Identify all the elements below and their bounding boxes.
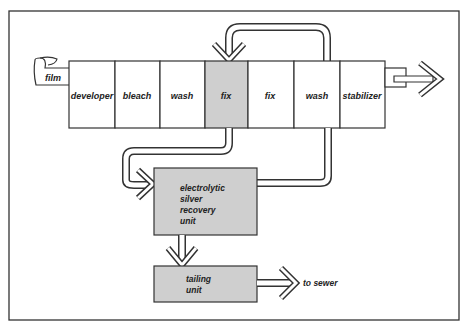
photo-processing-diagram: film developer bleach wash fix fix wash … bbox=[0, 0, 462, 329]
tailing-unit bbox=[154, 266, 257, 302]
film-roll-icon: film bbox=[34, 57, 70, 85]
return-pipe-top bbox=[214, 27, 327, 61]
electrolytic-silver-recovery-unit bbox=[154, 168, 257, 235]
recovery-unit-line3: recovery bbox=[180, 205, 217, 215]
recovery-to-tailing-arrow bbox=[168, 235, 196, 265]
wash-to-recovery-pipe bbox=[257, 128, 328, 183]
tailing-unit-line2: unit bbox=[186, 285, 203, 295]
tank-label-fix-2: fix bbox=[265, 91, 276, 101]
to-sewer-arrow bbox=[257, 268, 296, 298]
recovery-unit-line4: unit bbox=[180, 216, 197, 226]
tailing-unit-line1: tailing bbox=[186, 274, 212, 284]
processing-tanks: developer bleach wash fix fix wash stabi… bbox=[69, 61, 385, 128]
to-sewer-label: to sewer bbox=[303, 278, 338, 288]
tank-label-wash-1: wash bbox=[171, 91, 194, 101]
recovery-unit-line1: electrolytic bbox=[180, 183, 225, 193]
tank-label-stabilizer: stabilizer bbox=[342, 91, 382, 101]
film-label: film bbox=[45, 73, 61, 83]
film-output-arrow bbox=[385, 63, 440, 95]
recovery-unit-line2: silver bbox=[180, 194, 203, 204]
tank-label-developer: developer bbox=[71, 91, 114, 101]
tank-label-fix-1: fix bbox=[221, 91, 232, 101]
tank-label-bleach: bleach bbox=[123, 91, 152, 101]
tank-label-wash-2: wash bbox=[306, 91, 329, 101]
